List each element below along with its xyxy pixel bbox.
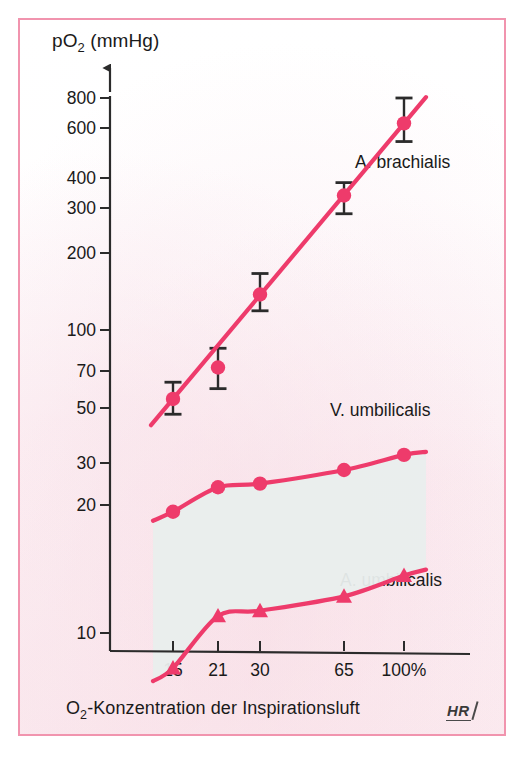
data-point-a-brachialis-15 bbox=[166, 392, 180, 406]
data-point-v-umbilicalis-100 bbox=[397, 448, 411, 462]
series-line-a-brachialis bbox=[151, 97, 426, 425]
x-axis-tick-marks bbox=[173, 641, 404, 651]
data-point-a-brachialis-21 bbox=[211, 360, 225, 374]
chart-canvas bbox=[0, 0, 526, 757]
data-point-v-umbilicalis-15 bbox=[166, 505, 180, 519]
data-point-a-brachialis-65 bbox=[337, 188, 351, 202]
data-point-v-umbilicalis-65 bbox=[337, 463, 351, 477]
data-point-a-brachialis-100 bbox=[397, 116, 411, 130]
shaded-band-between-umbilical-curves bbox=[153, 452, 426, 681]
data-point-v-umbilicalis-21 bbox=[211, 480, 225, 494]
data-point-v-umbilicalis-30 bbox=[253, 476, 267, 490]
data-point-a-brachialis-30 bbox=[253, 287, 267, 301]
